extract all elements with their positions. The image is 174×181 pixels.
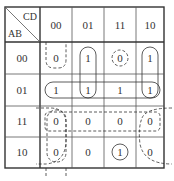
cell: 1	[147, 52, 153, 64]
col-variable-label: CD	[23, 11, 37, 22]
row-header-11: 11	[17, 115, 28, 127]
cell: 1	[85, 84, 91, 96]
row-header-10: 10	[17, 146, 29, 158]
cell: 0	[147, 146, 153, 158]
row-header-01: 01	[17, 84, 28, 96]
kmap-cells: 0 1 0 1 1 1 1 1 0 0 0 0 0 0 1 0	[53, 52, 153, 158]
cell: 0	[117, 52, 123, 64]
cell: 1	[85, 52, 91, 64]
cell: 1	[147, 84, 153, 96]
cell: 0	[117, 115, 123, 127]
row-header-00: 00	[17, 52, 29, 64]
row-variable-label: AB	[8, 28, 22, 39]
cell: 1	[53, 84, 59, 96]
cell: 0	[147, 115, 153, 127]
cell: 1	[117, 146, 123, 158]
solid-groupings	[45, 47, 160, 160]
col-header-11: 11	[115, 19, 126, 31]
col-header-10: 10	[145, 19, 157, 31]
col-header-00: 00	[51, 19, 63, 31]
col-header-01: 01	[83, 19, 94, 31]
cell: 0	[85, 146, 91, 158]
cell: 0	[53, 52, 59, 64]
cell: 0	[53, 115, 59, 127]
cell: 0	[85, 115, 91, 127]
cell: 1	[117, 84, 123, 96]
cell: 0	[53, 146, 59, 158]
karnaugh-map: CD AB 00 01 11 10 00 01 11 10 0 1 0 1 1 …	[0, 0, 174, 181]
